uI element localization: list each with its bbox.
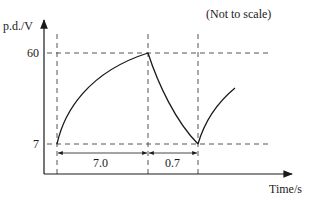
dim-label-discharge: 0.7 [165,156,180,170]
dim-label-charge: 7.0 [93,156,108,170]
y-axis-label: p.d./V [3,19,33,33]
tick-7: 7 [33,137,39,151]
discharge-curve [148,53,198,144]
not-to-scale-note: (Not to scale) [206,7,271,21]
tick-60: 60 [27,46,39,60]
capacitor-pd-chart: p.d./V (Not to scale) 60 7 7.0 0.7 Time/… [0,0,316,204]
recharge-curve [198,88,235,144]
charge-curve [57,53,148,144]
x-axis-label: Time/s [269,182,302,196]
